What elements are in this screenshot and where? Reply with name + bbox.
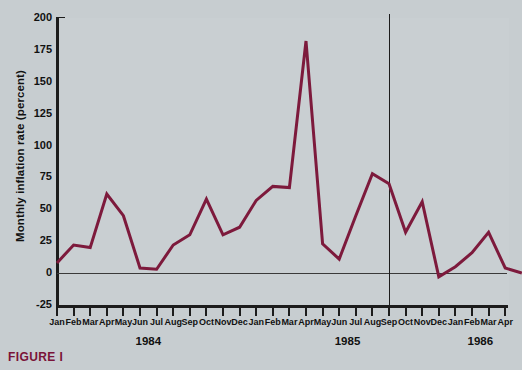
x-axis-tick xyxy=(172,308,174,316)
x-axis-tick xyxy=(454,308,456,316)
x-axis-tick xyxy=(338,308,340,316)
y-axis-tick-label: 25 xyxy=(4,235,52,246)
x-axis-year-label: 1985 xyxy=(313,335,383,347)
x-axis-tick xyxy=(471,308,473,316)
figure-root: Monthly inflation rate (percent) 2001751… xyxy=(0,0,522,370)
plot-area xyxy=(56,18,509,305)
x-axis-tick xyxy=(288,308,290,316)
x-axis-tick xyxy=(488,308,490,316)
x-axis-tick xyxy=(438,308,440,316)
y-axis-tick-label: 200 xyxy=(4,12,52,23)
x-axis-tick xyxy=(156,308,158,316)
x-axis-year-label: 1986 xyxy=(445,335,515,347)
x-axis-tick xyxy=(106,308,108,316)
x-axis-tick xyxy=(421,308,423,316)
zero-reference-line xyxy=(57,273,507,274)
x-axis-tick xyxy=(504,308,506,316)
y-axis-tick-label: 150 xyxy=(4,76,52,87)
x-axis-tick xyxy=(189,308,191,316)
x-axis-tick xyxy=(239,308,241,316)
x-axis-tick xyxy=(56,308,58,316)
x-axis-tick xyxy=(305,308,307,316)
x-axis-tick xyxy=(73,308,75,316)
figure-caption: FIGURE I xyxy=(8,350,63,364)
y-axis-labels: 2001751501251007550250-25 xyxy=(0,0,52,370)
x-axis-tick xyxy=(371,308,373,316)
period-divider-line xyxy=(389,14,391,306)
y-axis-tick-label: 0 xyxy=(4,267,52,278)
x-axis-tick xyxy=(405,308,407,316)
x-axis-tick xyxy=(139,308,141,316)
x-axis-tick xyxy=(272,308,274,316)
x-axis-tick xyxy=(205,308,207,316)
x-axis-tick xyxy=(222,308,224,316)
x-axis-tick xyxy=(388,308,390,316)
x-axis-month-label: Apr xyxy=(490,318,520,327)
y-axis-tick-label: 100 xyxy=(4,140,52,151)
x-axis-year-label: 1984 xyxy=(113,335,183,347)
y-axis-tick-label: 125 xyxy=(4,108,52,119)
x-axis-tick xyxy=(255,308,257,316)
x-axis-tick xyxy=(355,308,357,316)
x-axis-tick xyxy=(89,308,91,316)
y-axis-tick-label: 75 xyxy=(4,171,52,182)
y-axis-tick-label: 50 xyxy=(4,203,52,214)
y-axis-tick-label: -25 xyxy=(4,299,52,310)
y-axis-tick-label: 175 xyxy=(4,44,52,55)
x-axis-tick xyxy=(122,308,124,316)
x-axis-tick xyxy=(322,308,324,316)
